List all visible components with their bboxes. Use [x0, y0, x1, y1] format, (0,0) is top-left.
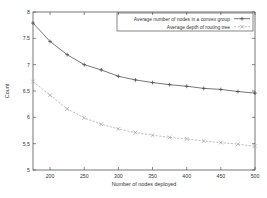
chart-legend: Average number of nodes in a convex grou… [117, 13, 253, 31]
legend-item-label-1: Average depth of routing tree [167, 25, 231, 30]
legend-swatch-dashed-cross [234, 25, 250, 29]
x-axis-label: Number of nodes deployed [112, 181, 177, 187]
y-axis-ticks: 55.566.577.58 [23, 9, 255, 173]
chart-container: 55.566.577.58 200250300350400450500 Numb… [0, 0, 267, 198]
y-tick-label: 6 [27, 114, 30, 120]
x-tick-label: 500 [251, 173, 260, 179]
series-line-1 [33, 82, 255, 147]
x-tick-label: 200 [46, 173, 55, 179]
x-tick-label: 400 [182, 173, 191, 179]
y-tick-label: 7 [27, 62, 30, 68]
data-series-group [31, 21, 257, 148]
y-tick-label: 5.5 [23, 141, 30, 147]
series-line-0 [33, 23, 255, 93]
plot-frame [33, 12, 255, 170]
series-0 [31, 21, 257, 95]
y-axis-label: Count [4, 83, 10, 98]
y-tick-label: 5 [27, 167, 30, 173]
x-tick-label: 250 [80, 173, 89, 179]
x-tick-label: 350 [148, 173, 157, 179]
legend-swatch-solid-plus [234, 17, 250, 21]
x-axis-ticks: 200250300350400450500 [46, 12, 260, 179]
y-tick-label: 7.5 [23, 35, 30, 41]
y-tick-label: 6.5 [23, 88, 30, 94]
x-tick-label: 300 [114, 173, 123, 179]
line-chart: 55.566.577.58 200250300350400450500 Numb… [0, 0, 267, 198]
y-tick-label: 8 [27, 9, 30, 15]
x-tick-label: 450 [217, 173, 226, 179]
legend-item-label-0: Average number of nodes in a convex grou… [134, 17, 230, 22]
